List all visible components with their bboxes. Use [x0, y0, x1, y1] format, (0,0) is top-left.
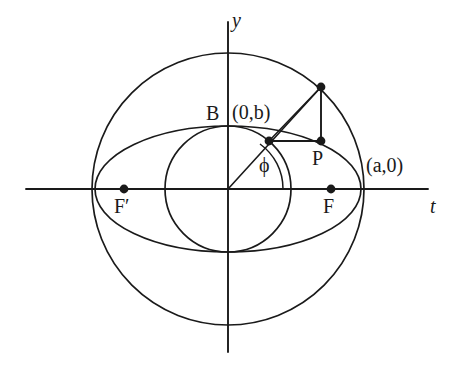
chord-segment — [269, 87, 321, 141]
angle-label-phi: ϕ — [259, 155, 270, 175]
point-label-F: F — [323, 196, 334, 216]
coordinate-label-0b: (0,b) — [232, 102, 270, 122]
point-marker-focus-left — [120, 185, 129, 194]
t-axis-label: t — [430, 196, 436, 216]
diagram-canvas — [0, 0, 456, 376]
figure-root: y t B (0,b) (a,0) P F F′ ϕ — [0, 0, 456, 376]
y-axis-label: y — [232, 10, 241, 30]
point-label-F-prime: F′ — [114, 196, 130, 216]
point-label-B: B — [206, 103, 219, 123]
point-marker-minor — [265, 137, 274, 146]
point-label-P: P — [312, 148, 323, 168]
coordinate-label-a0: (a,0) — [366, 155, 403, 175]
point-marker-outer — [317, 83, 326, 92]
point-marker-P — [317, 137, 326, 146]
point-marker-focus-right — [327, 185, 336, 194]
